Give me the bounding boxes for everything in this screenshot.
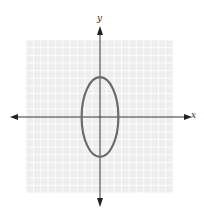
y-axis-down-arrow-icon [97,198,103,207]
coordinate-plane [0,0,204,216]
x-axis-label: x [191,110,196,120]
y-axis-label: y [97,13,102,23]
y-axis-up-arrow-icon [97,26,103,35]
x-axis-left-arrow-icon [10,114,18,120]
